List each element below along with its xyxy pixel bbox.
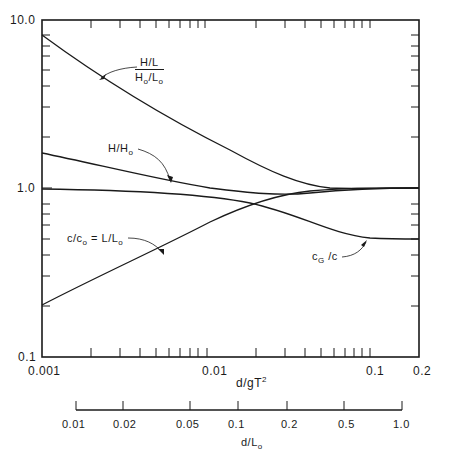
label-c-over-c0-sub-b: o — [118, 238, 123, 247]
sec-tick-5: 0.5 — [338, 418, 355, 430]
x-tick-0-001: 0.001 — [28, 364, 61, 378]
arrow-c-over-c0-icon — [158, 249, 164, 255]
x-tick-0-2: 0.2 — [413, 364, 431, 378]
secondary-axis-ticks — [76, 401, 402, 410]
den-part-b: /L — [148, 71, 158, 83]
label-h-over-h0: H/Ho — [108, 142, 133, 157]
label-cg-over-c-text-b: /c — [325, 250, 338, 262]
leader-c-over-c0 — [128, 238, 162, 252]
x-axis-label-text: d/gT — [236, 376, 262, 390]
arrow-h-over-h0-icon — [167, 175, 173, 183]
leader-h-over-l — [101, 67, 137, 78]
y-ticks-right — [411, 35, 419, 306]
den-sub-2: o — [159, 77, 164, 86]
secondary-axis-label-text: d/L — [241, 436, 258, 448]
y-tick-0-1: 0.1 — [18, 350, 36, 364]
sec-tick-2: 0.05 — [176, 418, 199, 430]
label-h-over-l: H/L Ho/Lo — [135, 56, 164, 86]
sec-tick-0: 0.01 — [62, 418, 85, 430]
secondary-axis-label-sub: o — [258, 442, 263, 451]
label-h-over-h0-sub: o — [128, 148, 133, 157]
y-tick-1: 1.0 — [17, 181, 35, 195]
label-h-over-l-denominator: Ho/Lo — [135, 70, 164, 86]
x-ticks-bottom — [91, 348, 370, 357]
label-c-over-c0-text-b: = L/L — [88, 232, 119, 244]
y-ticks-left — [42, 35, 52, 306]
label-h-over-h0-text: H/H — [108, 142, 128, 154]
x-ticks-top — [91, 20, 370, 28]
y-tick-10: 10.0 — [10, 13, 35, 27]
sec-tick-6: 1.0 — [393, 418, 410, 430]
chart-canvas — [0, 0, 449, 461]
x-tick-0-01: 0.01 — [202, 364, 227, 378]
label-c-over-c0: c/co = L/Lo — [67, 232, 123, 247]
arrow-cg-over-c-icon — [361, 240, 367, 247]
x-axis-label-exponent: 2 — [262, 375, 267, 384]
label-cg-over-c-sub: G — [318, 256, 325, 265]
x-axis-label: d/gT2 — [236, 375, 267, 390]
label-cg-over-c: cG /c — [312, 250, 338, 265]
sec-tick-1: 0.02 — [113, 418, 136, 430]
sec-tick-4: 0.2 — [281, 418, 298, 430]
label-h-over-l-numerator: H/L — [135, 56, 164, 70]
label-c-over-c0-text-a: c/c — [67, 232, 83, 244]
secondary-axis-label: d/Lo — [241, 436, 263, 451]
sec-tick-3: 0.1 — [228, 418, 245, 430]
x-tick-0-1: 0.1 — [366, 364, 384, 378]
